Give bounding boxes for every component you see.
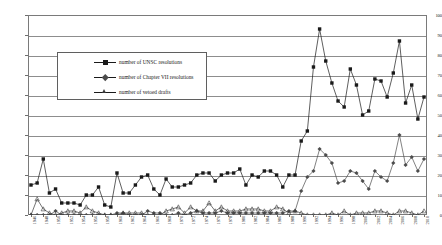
data-point (287, 173, 290, 176)
y-axis-tick-mark (25, 135, 28, 136)
x-axis-tick-label: 1978 (229, 216, 234, 224)
data-point (342, 179, 346, 183)
data-point (170, 213, 174, 215)
legend-item-unsc-resolutions: number of UNSC resolutions (94, 56, 182, 68)
data-point (373, 77, 376, 80)
x-axis-tick-mark (338, 215, 339, 217)
x-axis-tick-mark (363, 215, 364, 217)
legend-marker-square-icon (94, 58, 116, 66)
x-axis-tick-label: 1976 (217, 216, 222, 224)
x-axis-tick-label: 1980 (242, 216, 247, 224)
data-point (121, 191, 124, 194)
data-point (128, 191, 131, 194)
data-point (183, 183, 186, 186)
data-point (171, 185, 174, 188)
x-axis-tick-label: 1994 (328, 216, 333, 224)
y-axis-tick-label: 30 (418, 153, 442, 158)
y-axis-tick-mark (25, 35, 28, 36)
data-point (42, 157, 45, 160)
x-axis-tick-mark (105, 215, 106, 217)
data-point (134, 183, 137, 186)
x-axis-tick-mark (289, 215, 290, 217)
data-point (207, 211, 211, 215)
chart-series-layer (28, 15, 427, 215)
x-axis-tick-label: 1946 (33, 216, 38, 224)
data-point (66, 201, 69, 204)
x-axis-tick-mark (228, 215, 229, 217)
data-point (306, 129, 309, 132)
data-point (201, 171, 204, 174)
x-axis-tick-label: 1998 (352, 216, 357, 224)
legend-label: number of UNSC resolutions (119, 59, 182, 65)
data-point (219, 209, 223, 213)
x-axis-tick-mark (301, 215, 302, 217)
data-point (385, 95, 388, 98)
x-axis-tick-mark (326, 215, 327, 217)
x-axis-tick-label: 2006 (401, 216, 406, 224)
data-point (410, 83, 413, 86)
data-point (115, 171, 118, 174)
x-axis-tick-mark (412, 215, 413, 217)
x-axis-tick-mark (240, 215, 241, 217)
x-axis-tick-mark (252, 215, 253, 217)
y-axis-tick-mark (25, 195, 28, 196)
data-point (152, 187, 155, 190)
data-point (72, 213, 76, 215)
x-axis-tick-label: 2000 (364, 216, 369, 224)
data-point (281, 185, 284, 188)
x-axis-tick-mark (80, 215, 81, 217)
x-axis-tick-label: 1958 (106, 216, 111, 224)
data-point (342, 105, 345, 108)
x-axis-tick-label: 1972 (192, 216, 197, 224)
data-point (195, 173, 198, 176)
data-point (299, 139, 302, 142)
data-point (35, 213, 39, 215)
data-point (416, 117, 419, 120)
x-axis-tick-mark (399, 215, 400, 217)
x-axis-tick-mark (264, 215, 265, 217)
x-axis-tick-label: 1952 (70, 216, 75, 224)
data-point (226, 171, 229, 174)
x-axis-tick-label: 1988 (291, 216, 296, 224)
y-axis-tick-label: 70 (418, 73, 442, 78)
data-point (207, 171, 210, 174)
legend-item-chapter-vii-resolutions: number of Chapter VII resolutions (94, 71, 193, 83)
data-point (72, 201, 75, 204)
x-axis-tick-label: 1968 (168, 216, 173, 224)
data-point (244, 211, 248, 215)
data-point (189, 181, 192, 184)
data-point (140, 175, 143, 178)
data-point (250, 173, 253, 176)
y-axis-tick-mark (25, 55, 28, 56)
data-point (78, 203, 81, 206)
data-point (293, 173, 296, 176)
data-point (256, 211, 260, 215)
data-point (312, 65, 315, 68)
data-point (324, 59, 327, 62)
data-point (238, 167, 241, 170)
data-point (299, 189, 303, 193)
x-axis-tick-label: 1986 (278, 216, 283, 224)
data-point (355, 83, 358, 86)
x-axis-tick-mark (129, 215, 130, 217)
y-axis-tick-label: 0 (418, 213, 442, 218)
x-axis-tick-label: 1970 (180, 216, 185, 224)
data-point (35, 181, 38, 184)
legend-label: number of vetoed drafts (119, 89, 171, 95)
x-axis-tick-mark (178, 215, 179, 217)
data-point (220, 173, 223, 176)
x-axis-tick-mark (387, 215, 388, 217)
data-point (214, 179, 217, 182)
data-point (60, 201, 63, 204)
x-axis-tick-label: 1956 (94, 216, 99, 224)
x-axis-tick-mark (277, 215, 278, 217)
y-axis-tick-mark (25, 155, 28, 156)
data-point (84, 213, 88, 215)
data-point (349, 67, 352, 70)
data-point (158, 193, 161, 196)
data-point (263, 169, 266, 172)
data-point (48, 191, 51, 194)
y-axis-tick-label: 60 (418, 93, 442, 98)
x-axis-tick-mark (191, 215, 192, 217)
data-point (91, 193, 94, 196)
